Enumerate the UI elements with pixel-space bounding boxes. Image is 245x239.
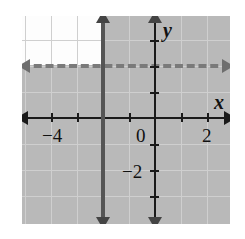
y-axis-label: y xyxy=(163,20,172,40)
x-axis-tick xyxy=(181,113,183,122)
solid-line-up-arrowhead xyxy=(96,16,110,23)
x-axis-tick xyxy=(129,113,131,122)
x-tick-label-minus-4: −4 xyxy=(42,126,62,145)
y-axis xyxy=(154,16,156,224)
y-axis-tick xyxy=(150,170,159,172)
x-axis-left-arrowhead xyxy=(22,111,28,125)
dashed-line-left-arrowhead xyxy=(22,59,30,73)
x-axis-tick xyxy=(77,113,79,122)
solid-boundary-line-x-equals-minus-2 xyxy=(101,20,105,220)
dashed-boundary-line-y-equals-2 xyxy=(22,64,230,68)
solid-line-down-arrowhead xyxy=(96,217,110,224)
y-axis-tick xyxy=(150,92,159,94)
x-axis-tick xyxy=(51,113,53,122)
gridline-horizontal xyxy=(22,40,230,41)
y-axis-up-arrowhead xyxy=(148,16,162,23)
y-axis-tick xyxy=(150,144,159,146)
x-axis xyxy=(22,117,230,119)
y-tick-label-minus-2: −2 xyxy=(122,162,142,181)
x-axis-right-arrowhead xyxy=(224,111,230,125)
x-axis-tick xyxy=(207,113,209,122)
x-tick-label-zero: 0 xyxy=(136,126,146,145)
y-axis-tick xyxy=(150,66,159,68)
y-axis-tick xyxy=(150,40,159,42)
x-axis-label: x xyxy=(214,92,224,112)
gridline-horizontal xyxy=(22,196,230,197)
gridline-horizontal xyxy=(22,92,230,93)
y-axis-tick xyxy=(150,196,159,198)
coordinate-plane: −4 0 2 −2 x y xyxy=(22,16,230,224)
graph-figure: −4 0 2 −2 x y xyxy=(0,0,245,239)
dashed-line-right-arrowhead xyxy=(222,59,230,73)
x-tick-label-two: 2 xyxy=(202,126,212,145)
y-axis-down-arrowhead xyxy=(148,217,162,224)
